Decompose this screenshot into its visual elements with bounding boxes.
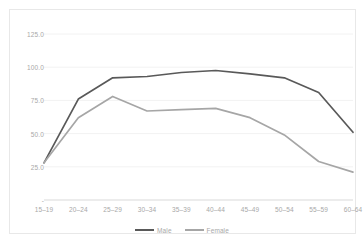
y-axis-tick-label: 100.0 [27,64,44,71]
y-axis-tick-label: 50.0 [31,130,44,137]
legend-item-male[interactable]: Male [135,227,172,234]
series-line-female [44,96,353,172]
x-axis-tick-label: 40–44 [206,206,225,213]
y-axis-zero-label: - [42,197,44,204]
x-axis-tick-label: 35–39 [172,206,191,213]
y-axis-tick-label: 75.0 [31,97,44,104]
x-axis-tick-label: 20–24 [69,206,88,213]
x-axis-tick-label: 45–49 [241,206,260,213]
legend-label: Male [157,227,172,234]
x-axis-tick-label: 30–34 [138,206,157,213]
x-axis-tick-labels: 15–1920–2425–2930–3435–3940–4445–4950–54… [0,206,364,218]
chart-legend: MaleFemale [0,224,364,236]
legend-swatch-icon [135,229,154,231]
x-axis-tick-label: 25–29 [103,206,122,213]
series-lines [44,71,353,173]
x-axis-tick-label: 60–64 [344,206,363,213]
x-axis-tick-label: 15–19 [35,206,54,213]
x-axis-tick-label: 55–59 [309,206,328,213]
legend-item-female[interactable]: Female [185,227,229,234]
gridlines [44,34,353,167]
series-line-male [44,71,353,163]
legend-label: Female [207,227,229,234]
y-axis-tick-label: 25.0 [31,163,44,170]
y-axis-tick-label: 125.0 [27,31,44,38]
legend-swatch-icon [185,229,204,231]
x-axis-tick-label: 50–54 [275,206,294,213]
